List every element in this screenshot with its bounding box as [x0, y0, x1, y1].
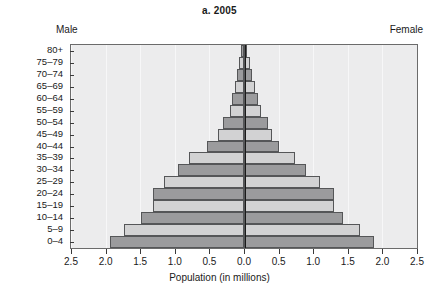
y-axis-label-30–34: 30–34 [37, 164, 63, 174]
female-side-label: Female [390, 24, 423, 35]
x-axis-tick [140, 249, 141, 254]
bar-male-55–59 [230, 105, 244, 117]
bar-row [71, 141, 417, 153]
y-axis-tick [70, 63, 74, 64]
bar-row [71, 69, 417, 81]
bar-male-0–4 [110, 236, 244, 248]
y-axis-tick [70, 51, 74, 52]
y-axis-label-40–44: 40–44 [37, 141, 63, 151]
bar-female-15–19 [244, 200, 334, 212]
y-axis-label-70–74: 70–74 [37, 69, 63, 79]
bar-male-50–54 [223, 117, 244, 129]
bar-row [71, 224, 417, 236]
bar-male-10–14 [141, 212, 244, 224]
y-axis-tick [70, 147, 74, 148]
center-axis-line [245, 45, 246, 248]
y-axis-label-35–39: 35–39 [37, 152, 63, 162]
bar-female-60–64 [244, 93, 258, 105]
chart-title: a. 2005 [0, 5, 439, 16]
bar-female-20–24 [244, 188, 334, 200]
x-axis-label-10: 2.5 [397, 256, 437, 267]
y-axis-label-50–54: 50–54 [37, 117, 63, 127]
x-axis-tick [175, 249, 176, 254]
bar-row [71, 200, 417, 212]
y-axis-label-45–49: 45–49 [37, 129, 63, 139]
bar-female-0–4 [244, 236, 374, 248]
bar-row [71, 152, 417, 164]
y-axis-label-55–59: 55–59 [37, 105, 63, 115]
bar-female-30–34 [244, 164, 306, 176]
y-axis-tick [70, 158, 74, 159]
bar-male-20–24 [153, 188, 244, 200]
x-axis-title: Population (in millions) [0, 272, 439, 283]
bar-female-25–29 [244, 176, 320, 188]
y-axis-label-0–4: 0–4 [47, 236, 63, 246]
gridline [417, 45, 418, 248]
x-axis-tick [244, 249, 245, 254]
bar-male-30–34 [178, 164, 244, 176]
y-axis-tick [70, 87, 74, 88]
bar-male-5–9 [124, 224, 244, 236]
x-axis-tick [71, 249, 72, 254]
x-axis-tick [382, 249, 383, 254]
x-axis-tick [348, 249, 349, 254]
y-axis-tick [70, 206, 74, 207]
plot-area [70, 44, 418, 249]
bar-male-70–74 [237, 69, 244, 81]
y-axis-labels: 80+75–7970–7465–6960–6455–5950–5445–4940… [0, 44, 68, 249]
bar-row [71, 105, 417, 117]
bar-row [71, 176, 417, 188]
bar-female-35–39 [244, 152, 295, 164]
x-axis-tick [279, 249, 280, 254]
bar-male-60–64 [232, 93, 244, 105]
x-axis-tick [106, 249, 107, 254]
y-axis-label-25–29: 25–29 [37, 176, 63, 186]
bar-row [71, 57, 417, 69]
male-side-label: Male [56, 24, 78, 35]
y-axis-label-5–9: 5–9 [47, 224, 63, 234]
bar-male-35–39 [189, 152, 244, 164]
y-axis-label-10–14: 10–14 [37, 212, 63, 222]
y-axis-label-20–24: 20–24 [37, 188, 63, 198]
bar-female-40–44 [244, 141, 279, 153]
bar-female-5–9 [244, 224, 360, 236]
y-axis-tick [70, 75, 74, 76]
bar-female-50–54 [244, 117, 268, 129]
bar-female-55–59 [244, 105, 261, 117]
y-axis-tick [70, 135, 74, 136]
bar-female-10–14 [244, 212, 343, 224]
y-axis-tick [70, 230, 74, 231]
x-axis-tick [209, 249, 210, 254]
x-axis-tick [313, 249, 314, 254]
bar-male-45–49 [218, 129, 244, 141]
bar-row [71, 212, 417, 224]
x-axis-tick [417, 249, 418, 254]
bar-male-65–69 [235, 81, 244, 93]
bar-row [71, 129, 417, 141]
y-axis-tick [70, 99, 74, 100]
bar-row [71, 45, 417, 57]
y-axis-tick [70, 242, 74, 243]
bar-row [71, 81, 417, 93]
y-axis-label-65–69: 65–69 [37, 81, 63, 91]
bar-male-15–19 [153, 200, 244, 212]
y-axis-tick [70, 218, 74, 219]
y-axis-label-60–64: 60–64 [37, 93, 63, 103]
y-axis-tick [70, 182, 74, 183]
y-axis-label-75–79: 75–79 [37, 57, 63, 67]
y-axis-tick [70, 170, 74, 171]
population-pyramid-chart: a. 2005 Male Female 80+75–7970–7465–6960… [0, 0, 439, 296]
bar-row [71, 188, 417, 200]
bar-row [71, 164, 417, 176]
bar-rows [71, 45, 417, 248]
bar-male-25–29 [164, 176, 244, 188]
bar-row [71, 117, 417, 129]
bar-row [71, 236, 417, 248]
bar-row [71, 93, 417, 105]
y-axis-tick [70, 123, 74, 124]
y-axis-tick [70, 194, 74, 195]
y-axis-tick [70, 111, 74, 112]
bar-female-45–49 [244, 129, 272, 141]
bar-male-40–44 [207, 141, 244, 153]
y-axis-label-15–19: 15–19 [37, 200, 63, 210]
